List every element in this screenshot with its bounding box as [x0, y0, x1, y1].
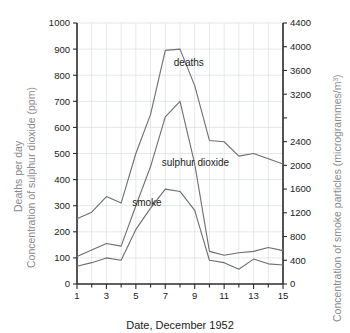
y-axis-left-tick-label: 300: [54, 200, 70, 211]
series-annotations: deathssulphur dioxidesmoke: [132, 57, 229, 208]
y-axis-right-title: Concentration of smoke particles (microg…: [331, 74, 343, 322]
y-axis-left-title-line2: Concentration of sulphur dioxide (ppm): [25, 87, 37, 268]
y-axis-right-tick-label: 400: [290, 255, 306, 266]
x-axis-tick-label: 7: [163, 290, 168, 301]
y-axis-left-tick-label: 600: [54, 122, 70, 133]
y-axis-right-tick-label: 1200: [290, 207, 311, 218]
series-label-deaths: deaths: [174, 57, 204, 68]
y-axis-right-tick-label: 4000: [290, 41, 311, 52]
chart-canvas: 0100200300400500600700800900100004008001…: [0, 0, 350, 333]
y-axis-left-tick-label: 500: [54, 148, 70, 159]
x-axis-tick-label: 15: [278, 290, 289, 301]
y-axis-right-tick-label: 3200: [290, 89, 311, 100]
y-axis-right-tick-label: 1600: [290, 183, 311, 194]
y-axis-right-tick-label: 2400: [290, 136, 311, 147]
smog-chart: 0100200300400500600700800900100004008001…: [0, 0, 350, 333]
x-axis-tick-label: 1: [74, 290, 79, 301]
series-label-sulphur-dioxide: sulphur dioxide: [162, 157, 230, 168]
y-axis-left-tick-label: 400: [54, 174, 70, 185]
x-axis-tick-label: 5: [133, 290, 138, 301]
y-axis-right-tick-label: 0: [290, 278, 295, 289]
x-axis-title: Date, December 1952: [126, 319, 234, 331]
y-axis-right-tick-label: 4400: [290, 17, 311, 28]
y-axis-left-tick-label: 800: [54, 70, 70, 81]
y-axis-left-tick-label: 700: [54, 96, 70, 107]
x-axis-tick-label: 3: [104, 290, 109, 301]
y-axis-left-tick-label: 200: [54, 226, 70, 237]
series-label-smoke: smoke: [132, 197, 162, 208]
y-axis-left-tick-label: 100: [54, 252, 70, 263]
y-axis-right-title-close: ): [331, 74, 343, 78]
y-axis-left-tick-label: 0: [65, 278, 70, 289]
y-axis-right-title-base: Concentration of smoke particles (microg…: [331, 81, 343, 322]
y-axis-right-tick-label: 800: [290, 231, 306, 242]
y-axis-right-tick-label: 3600: [290, 65, 311, 76]
y-axis-right-tick-label: 2000: [290, 160, 311, 171]
x-axis-tick-label: 9: [192, 290, 197, 301]
x-axis-tick-label: 11: [219, 290, 229, 301]
x-axis-tick-label: 13: [248, 290, 259, 301]
y-axis-left-tick-label: 900: [54, 44, 70, 55]
y-axis-left-tick-label: 1000: [49, 17, 70, 28]
y-axis-left-title-line1: Deaths per day: [12, 140, 24, 212]
